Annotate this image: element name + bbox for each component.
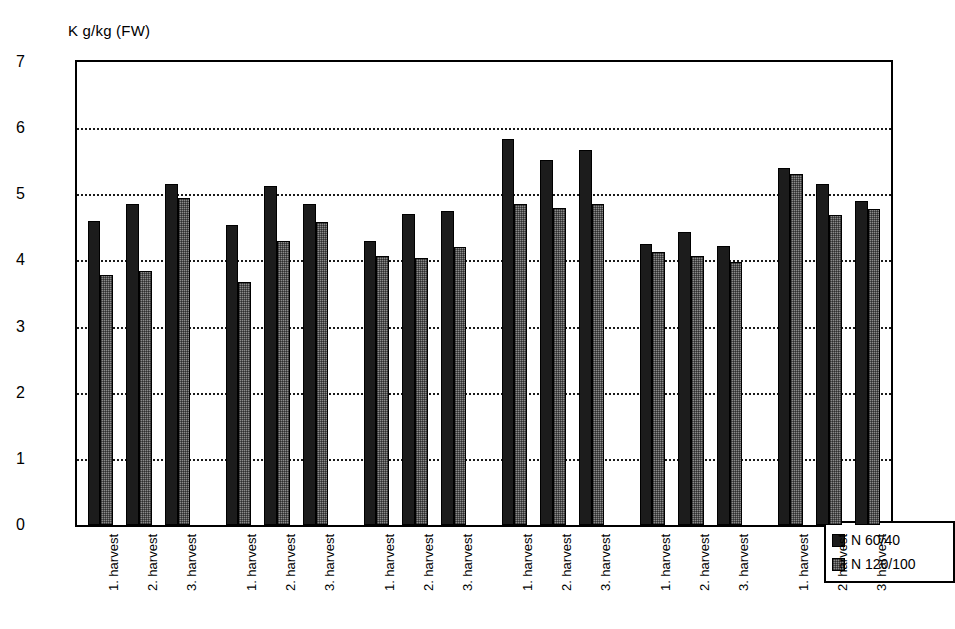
y-tick-label: 3 [0,318,25,336]
bar [226,225,239,525]
gridline [77,459,891,461]
bar [402,214,415,525]
bar [376,256,389,525]
x-tick-label: 3. harvest [184,534,199,591]
x-tick-label: 1. harvest [106,534,121,591]
bar [678,232,691,525]
bar [277,241,290,525]
bar [540,160,553,525]
y-axis-title: K g/kg (FW) [68,22,150,39]
bar [139,271,152,525]
bar [165,184,178,525]
bar [88,221,101,525]
bar [514,204,527,525]
y-tick-label: 6 [0,119,25,137]
bar [100,275,113,525]
bar [502,139,515,525]
x-tick-label: 1. harvest [796,534,811,591]
x-tick-label: 3. harvest [460,534,475,591]
y-tick-label: 4 [0,251,25,269]
bar [553,208,566,525]
plot-area: N 60/40 N 120/100 [75,60,893,527]
y-tick-label: 0 [0,516,25,534]
y-tick-label: 5 [0,185,25,203]
gridline [77,260,891,262]
bar [238,282,251,525]
bar [454,247,467,525]
x-tick-label: 1. harvest [520,534,535,591]
x-tick-label: 1. harvest [658,534,673,591]
bar [579,150,592,525]
x-tick-label: 2. harvest [835,534,850,591]
x-tick-label: 3. harvest [598,534,613,591]
bar [415,258,428,525]
gridline [77,393,891,395]
x-tick-label: 1. harvest [382,534,397,591]
bar [855,201,868,525]
bar [178,198,191,525]
bar [640,244,653,525]
y-tick-label: 2 [0,384,25,402]
bar [592,204,605,525]
bar [441,211,454,525]
bar [778,168,791,525]
x-tick-label: 2. harvest [283,534,298,591]
gridline [77,128,891,130]
bar [816,184,829,525]
y-tick-label: 7 [0,53,25,71]
y-tick-label: 1 [0,450,25,468]
x-tick-label: 3. harvest [322,534,337,591]
bar [264,186,277,525]
bar [364,241,377,525]
x-tick-label: 3. harvest [736,534,751,591]
bar [303,204,316,525]
x-tick-label: 2. harvest [697,534,712,591]
bar [790,174,803,525]
bar [652,252,665,525]
bar [730,262,743,525]
bar [868,209,881,525]
x-tick-label: 2. harvest [421,534,436,591]
x-tick-label: 1. harvest [244,534,259,591]
plot-inner [77,62,891,525]
bar [126,204,139,525]
x-tick-label: 2. harvest [559,534,574,591]
x-tick-label: 2. harvest [145,534,160,591]
x-tick-label: 3. harvest [874,534,889,591]
bar [829,215,842,525]
bar [691,256,704,525]
gridline [77,327,891,329]
bar [316,222,329,525]
bar [717,246,730,525]
gridline [77,194,891,196]
